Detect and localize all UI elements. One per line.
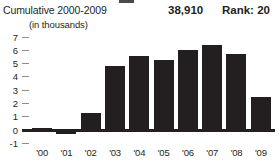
- bar: [105, 66, 125, 130]
- y-axis-tick: 2: [0, 98, 30, 109]
- y-axis-tick-mark: [22, 76, 29, 77]
- y-axis-tick: 6: [0, 45, 30, 56]
- x-axis-label: '09: [249, 147, 273, 158]
- x-axis-label: '08: [224, 147, 248, 158]
- bar: [226, 54, 246, 130]
- y-axis-tick-label: 1: [13, 111, 18, 122]
- y-axis-tick-mark: [22, 50, 29, 51]
- y-axis-tick-mark: [22, 143, 29, 144]
- y-axis-tick-label: 2: [13, 98, 18, 109]
- bar: [56, 130, 76, 134]
- bar: [251, 97, 271, 130]
- x-axis-label: '04: [127, 147, 151, 158]
- bar-slot: [103, 0, 127, 160]
- bar-slot: [152, 0, 176, 160]
- y-axis-tick-label: 6: [13, 45, 18, 56]
- y-axis-tick-mark: [22, 37, 29, 38]
- bar-slot: [127, 0, 151, 160]
- y-axis-tick: 4: [0, 71, 30, 82]
- bar: [81, 113, 101, 130]
- bar-slot: [249, 0, 273, 160]
- bar: [202, 45, 222, 130]
- x-axis-label: '06: [176, 147, 200, 158]
- y-axis-tick-label: 0: [13, 125, 18, 136]
- y-axis-tick-mark: [22, 90, 29, 91]
- x-axis-label: '02: [79, 147, 103, 158]
- bar: [32, 128, 52, 130]
- y-axis-tick-label: 7: [13, 32, 18, 43]
- bar: [129, 56, 149, 130]
- x-axis-label: '00: [30, 147, 54, 158]
- x-axis-label: '07: [200, 147, 224, 158]
- x-axis-label: '01: [54, 147, 78, 158]
- bar-slot: [54, 0, 78, 160]
- bar: [178, 50, 198, 130]
- x-axis-label: '05: [152, 147, 176, 158]
- y-axis-tick-mark: [22, 116, 29, 117]
- y-axis-tick: 5: [0, 58, 30, 69]
- y-axis-tick-label: -1: [10, 138, 18, 149]
- bar-slot: [30, 0, 54, 160]
- y-axis-tick-mark: [22, 63, 29, 64]
- y-axis-tick: 1: [0, 111, 30, 122]
- bar-slot: [79, 0, 103, 160]
- y-axis-tick: 7: [0, 32, 30, 43]
- y-axis-tick-label: 5: [13, 58, 18, 69]
- y-axis-tick-mark: [22, 103, 29, 104]
- bar: [154, 60, 174, 130]
- bar-slot: [200, 0, 224, 160]
- y-axis-tick: -1: [0, 138, 30, 149]
- y-axis-tick-label: 4: [13, 71, 18, 82]
- bar-slot: [224, 0, 248, 160]
- y-axis-tick-label: 3: [13, 85, 18, 96]
- bar-slot: [176, 0, 200, 160]
- bar-chart: 76543210-1 '00'01'02'03'04'05'06'07'08'0…: [0, 0, 279, 160]
- y-axis-tick: 3: [0, 85, 30, 96]
- x-axis-label: '03: [103, 147, 127, 158]
